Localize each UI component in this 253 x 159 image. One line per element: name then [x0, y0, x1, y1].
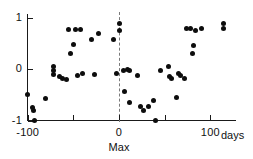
- x-tick: [119, 115, 120, 120]
- data-point: [43, 96, 48, 101]
- data-point: [80, 71, 85, 76]
- data-point: [122, 89, 127, 94]
- data-point: [151, 98, 156, 103]
- scatter-plot: 10-1-1000100 Max days: [0, 0, 253, 159]
- data-point: [111, 37, 116, 42]
- data-point: [182, 76, 187, 81]
- data-point: [32, 118, 37, 123]
- data-point: [71, 42, 76, 47]
- x-tick-label: 100: [201, 126, 220, 138]
- data-point: [51, 72, 56, 77]
- data-point: [188, 26, 193, 31]
- data-point: [31, 108, 36, 113]
- x-tick-label: -100: [16, 126, 39, 138]
- data-point: [158, 68, 163, 73]
- data-point: [78, 27, 83, 32]
- x-tick-label: 0: [116, 126, 122, 138]
- y-tick: [28, 69, 33, 70]
- x-axis-line: [27, 120, 236, 121]
- data-point: [64, 77, 69, 82]
- data-point: [221, 26, 226, 31]
- data-point: [190, 51, 195, 56]
- data-point: [174, 95, 179, 100]
- data-point: [96, 31, 101, 36]
- data-point: [193, 28, 198, 33]
- data-point: [25, 92, 30, 97]
- data-point: [92, 72, 97, 77]
- y-tick-label: 0: [0, 62, 22, 74]
- y-tick-label: 1: [0, 11, 22, 23]
- x-tick: [73, 115, 74, 120]
- x-tick: [28, 115, 29, 120]
- data-point: [127, 68, 132, 73]
- data-point: [117, 21, 122, 26]
- data-point: [141, 108, 146, 113]
- x-tick: [165, 115, 166, 120]
- x-axis-label: days: [221, 129, 244, 141]
- y-tick: [28, 18, 33, 19]
- y-axis-line: [27, 14, 28, 121]
- data-point: [146, 104, 151, 109]
- data-point: [117, 28, 122, 33]
- y-tick-label: -1: [0, 114, 22, 126]
- x-tick: [210, 115, 211, 120]
- data-point: [199, 26, 204, 31]
- data-point: [191, 43, 196, 48]
- data-point: [73, 27, 78, 32]
- data-point: [66, 27, 71, 32]
- data-point: [135, 73, 140, 78]
- data-point: [68, 51, 73, 56]
- data-point: [89, 37, 94, 42]
- data-point: [114, 71, 119, 76]
- data-point: [127, 100, 132, 105]
- data-point: [169, 76, 174, 81]
- data-point: [166, 64, 171, 69]
- data-point: [153, 118, 158, 123]
- max-annotation-label: Max: [109, 141, 130, 153]
